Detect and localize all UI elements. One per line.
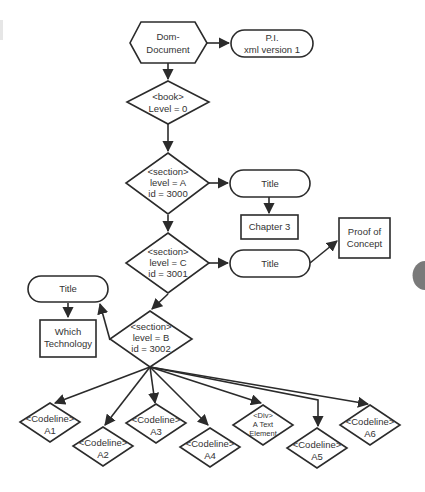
node-label: level = A <box>150 177 187 188</box>
node-label: Which <box>55 326 81 337</box>
node-book: <book> Level = 0 <box>127 81 209 124</box>
node-label: <section> <box>147 166 189 177</box>
node-codeline-a3: <Codeline> A3 <box>126 404 186 443</box>
node-label: <Codeline> <box>79 437 128 448</box>
node-codeline-a5: <Codeline> A5 <box>287 428 347 468</box>
node-label: Element <box>249 429 277 438</box>
node-label: Title <box>261 258 279 269</box>
node-label: Title <box>59 283 77 294</box>
node-codeline-a6: <Codeline> A6 <box>340 405 400 445</box>
node-label: Level = 0 <box>149 103 188 114</box>
node-label: <Codeline> <box>346 416 395 427</box>
node-label: <Codeline> <box>293 439 342 450</box>
node-which-technology: Which Technology <box>40 320 96 357</box>
node-codeline-a1: <Codeline> A1 <box>20 403 80 442</box>
edge-sectionB-a6 <box>150 367 368 404</box>
node-label: A Text <box>253 420 274 429</box>
node-label: Chapter 3 <box>249 221 291 232</box>
node-label: <Codeline> <box>132 414 181 425</box>
node-proof-of-concept: Proof of Concept <box>339 218 390 258</box>
dom-tree-diagram: Dom- Document P.I. xml version 1 <book> … <box>0 0 425 492</box>
node-title-c: Title <box>230 250 310 277</box>
edge-sectionC-sectionB <box>152 294 168 309</box>
node-label: Technology <box>44 338 92 349</box>
node-label: level = B <box>133 332 170 343</box>
node-chapter-3: Chapter 3 <box>241 215 298 239</box>
node-label: A5 <box>311 451 323 462</box>
node-label: A6 <box>364 428 376 439</box>
node-processing-instruction: P.I. xml version 1 <box>231 30 313 57</box>
node-label: <Codeline> <box>26 413 75 424</box>
node-codeline-a2: <Codeline> A2 <box>73 427 133 466</box>
edge-sectionB-title <box>100 304 110 340</box>
node-label: A2 <box>97 449 109 460</box>
edge-sectionB-a3 <box>150 367 155 403</box>
edge-title-proof <box>310 241 337 263</box>
node-codeline-a4: <Codeline> A4 <box>180 428 240 467</box>
node-label: <book> <box>152 91 184 102</box>
node-label: A1 <box>44 425 56 436</box>
node-label: <section> <box>130 321 172 332</box>
node-label: <Codeline> <box>186 438 235 449</box>
node-label: Title <box>261 178 279 189</box>
node-section-a: <section> level = A id = 3000 <box>126 153 209 214</box>
edges <box>55 43 368 426</box>
node-label: id = 3001 <box>148 268 187 279</box>
node-label: Dom- <box>156 31 179 42</box>
node-label: P.I. <box>265 32 278 43</box>
node-label: Document <box>146 44 190 55</box>
node-label: Concept <box>347 238 383 249</box>
left-page-edge <box>0 20 3 40</box>
node-label: id = 3000 <box>148 188 187 199</box>
node-label: <Div> <box>253 411 273 420</box>
node-label: <section> <box>147 246 189 257</box>
node-section-c: <section> level = C id = 3001 <box>126 233 209 293</box>
node-label: id = 3002 <box>131 343 170 354</box>
node-label: level = C <box>149 257 186 268</box>
node-div-text-element: <Div> A Text Element <box>233 405 293 445</box>
side-tab-marker <box>413 261 425 290</box>
node-title-b: Title <box>28 276 108 302</box>
node-label: A3 <box>150 426 162 437</box>
node-section-b: <section> level = B id = 3002 <box>110 311 192 367</box>
node-label: A4 <box>204 450 216 461</box>
node-label: Proof of <box>348 226 382 237</box>
node-dom-document: Dom- Document <box>130 22 207 63</box>
node-label: xml version 1 <box>244 44 300 55</box>
node-title-a: Title <box>230 170 310 197</box>
